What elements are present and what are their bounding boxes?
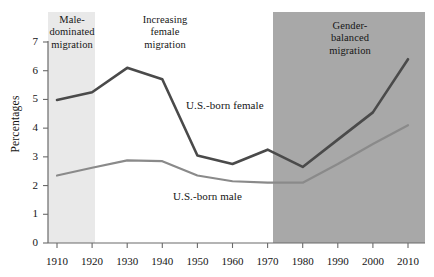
data-series <box>57 59 408 182</box>
x-tick-2010: 2010 <box>386 256 430 267</box>
y-tick-1: 1 <box>18 208 38 219</box>
y-tick-5: 5 <box>18 93 38 104</box>
y-tick-2: 2 <box>18 180 38 191</box>
series-line-male <box>57 125 408 182</box>
axes <box>43 41 425 248</box>
plot-area <box>0 0 434 277</box>
series-label-female: U.S.-born female <box>186 99 264 111</box>
y-tick-4: 4 <box>18 122 38 133</box>
y-tick-6: 6 <box>18 65 38 76</box>
series-label-male: U.S.-born male <box>173 190 242 202</box>
y-tick-0: 0 <box>18 237 38 248</box>
y-tick-7: 7 <box>18 36 38 47</box>
chart-figure: Male- dominated migration Increasing fem… <box>0 0 434 277</box>
y-tick-3: 3 <box>18 151 38 162</box>
series-line-female <box>57 59 408 167</box>
